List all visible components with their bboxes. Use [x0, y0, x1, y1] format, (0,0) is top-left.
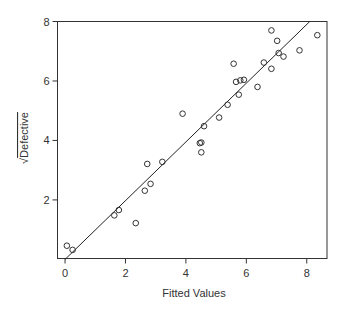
data-points [64, 28, 320, 253]
y-tick-label: 4 [43, 134, 49, 146]
x-axis-label: Fitted Values [162, 287, 226, 299]
data-point [236, 92, 242, 98]
data-point [116, 207, 122, 213]
data-point [199, 150, 205, 156]
data-point [269, 28, 275, 34]
data-point [269, 66, 275, 72]
data-point [144, 161, 150, 167]
regression-line [65, 22, 310, 260]
x-axis-ticks: 02468 [62, 259, 310, 279]
data-point [261, 60, 267, 66]
y-label-text: Defective [18, 112, 30, 158]
data-point [241, 77, 247, 83]
data-point [281, 54, 287, 60]
x-tick-label: 2 [122, 267, 128, 279]
data-point [64, 243, 70, 249]
data-point [160, 159, 166, 165]
data-point [216, 115, 222, 121]
y-tick-label: 6 [43, 75, 49, 87]
x-tick-label: 6 [243, 267, 249, 279]
y-axis-label: √Defective [18, 112, 30, 164]
data-point [274, 38, 280, 44]
data-point [133, 220, 139, 226]
x-tick-label: 0 [62, 267, 68, 279]
data-point [180, 111, 186, 117]
data-point [315, 32, 321, 38]
data-point [225, 102, 231, 108]
x-tick-label: 8 [304, 267, 310, 279]
data-point [297, 48, 303, 54]
y-axis-ticks: 2468 [43, 16, 57, 206]
data-point [142, 188, 148, 194]
data-point [255, 84, 261, 90]
x-tick-label: 4 [183, 267, 189, 279]
data-point [231, 61, 237, 67]
scatter-chart: 02468 2468 Fitted Values √Defective [0, 0, 345, 312]
data-point [112, 213, 118, 219]
y-tick-label: 8 [43, 16, 49, 28]
data-point [148, 181, 154, 187]
y-tick-label: 2 [43, 194, 49, 206]
svg-text:√Defective: √Defective [18, 112, 30, 164]
